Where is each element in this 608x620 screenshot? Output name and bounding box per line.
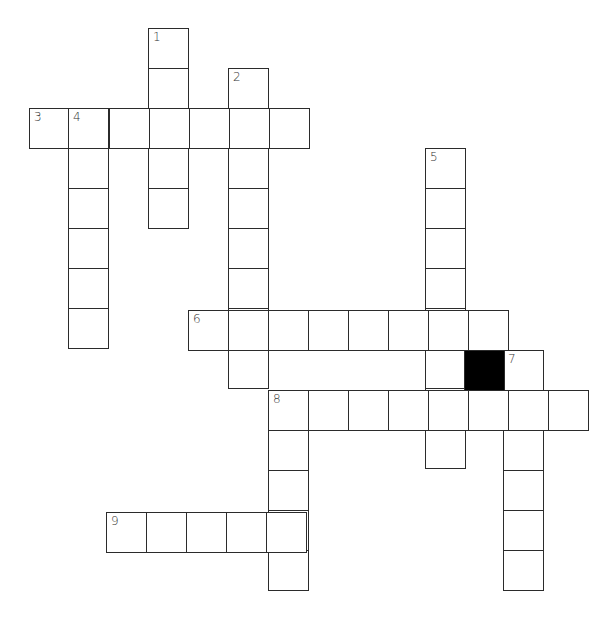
crossword-cell[interactable] (228, 310, 269, 351)
crossword-cell[interactable] (308, 310, 349, 351)
crossword-cell[interactable] (228, 148, 269, 189)
crossword-cell[interactable] (148, 188, 189, 229)
crossword-cell[interactable] (228, 268, 269, 309)
crossword-cell[interactable]: 5 (425, 148, 466, 189)
crossword-cell[interactable] (68, 188, 109, 229)
black-block-cell (464, 350, 505, 391)
crossword-cell[interactable] (68, 148, 109, 189)
crossword-cell[interactable] (468, 310, 509, 351)
crossword-cell[interactable] (268, 550, 309, 591)
crossword-cell[interactable] (468, 390, 509, 431)
crossword-cell[interactable] (226, 512, 267, 553)
crossword-cell[interactable]: 9 (106, 512, 147, 553)
crossword-cell[interactable] (428, 310, 469, 351)
crossword-cell[interactable] (269, 108, 310, 149)
crossword-cell[interactable] (425, 268, 466, 309)
crossword-cell[interactable] (508, 390, 549, 431)
crossword-cell[interactable] (266, 512, 307, 553)
crossword-cell[interactable] (308, 390, 349, 431)
crossword-cell[interactable] (146, 512, 187, 553)
crossword-cell[interactable] (228, 188, 269, 229)
crossword-cell[interactable] (503, 510, 544, 551)
crossword-cell[interactable] (109, 108, 150, 149)
crossword-cell[interactable] (148, 68, 189, 109)
crossword-cell[interactable] (348, 310, 389, 351)
crossword-cell[interactable]: 8 (268, 390, 309, 431)
crossword-cell[interactable] (268, 310, 309, 351)
clue-number: 8 (273, 392, 281, 406)
crossword-cell[interactable] (229, 108, 270, 149)
clue-number: 9 (111, 514, 119, 528)
crossword-cell[interactable] (186, 512, 227, 553)
clue-number: 3 (34, 110, 42, 124)
crossword-cell[interactable]: 1 (148, 28, 189, 69)
crossword-cell[interactable] (268, 430, 309, 471)
crossword-cell[interactable]: 7 (503, 350, 544, 391)
crossword-cell[interactable] (228, 348, 269, 389)
crossword-cell[interactable]: 6 (188, 310, 229, 351)
clue-number: 5 (430, 150, 438, 164)
clue-number: 4 (73, 110, 81, 124)
crossword-cell[interactable] (425, 348, 466, 389)
crossword-cell[interactable] (425, 428, 466, 469)
crossword-cell[interactable] (425, 188, 466, 229)
crossword-cell[interactable] (503, 430, 544, 471)
crossword-cell[interactable] (388, 390, 429, 431)
crossword-cell[interactable] (348, 390, 389, 431)
crossword-cell[interactable] (228, 228, 269, 269)
clue-number: 6 (193, 312, 201, 326)
crossword-cell[interactable] (503, 550, 544, 591)
crossword-cell[interactable] (148, 148, 189, 189)
crossword-cell[interactable]: 3 (29, 108, 70, 149)
clue-number: 2 (233, 70, 241, 84)
crossword-cell[interactable] (268, 470, 309, 511)
crossword-cell[interactable] (388, 310, 429, 351)
crossword-cell[interactable] (68, 308, 109, 349)
clue-number: 1 (153, 30, 161, 44)
crossword-cell[interactable] (548, 390, 589, 431)
crossword-cell[interactable]: 4 (68, 108, 109, 149)
crossword-cell[interactable] (503, 470, 544, 511)
crossword-cell[interactable] (428, 390, 469, 431)
crossword-cell[interactable] (68, 228, 109, 269)
crossword-cell[interactable] (68, 268, 109, 309)
crossword-cell[interactable] (425, 228, 466, 269)
crossword-grid: 123456789 (0, 0, 608, 620)
clue-number: 7 (508, 352, 516, 366)
crossword-cell[interactable]: 2 (228, 68, 269, 109)
crossword-cell[interactable] (149, 108, 190, 149)
crossword-cell[interactable] (189, 108, 230, 149)
